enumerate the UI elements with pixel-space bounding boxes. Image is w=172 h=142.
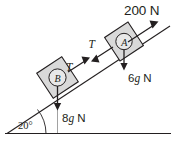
tension-label-lower: T — [66, 62, 72, 74]
applied-force-label: 200 N — [124, 4, 160, 18]
incline-angle-label: 20° — [18, 121, 33, 132]
block-b-letter: B — [55, 73, 61, 84]
weight-label-a: 6g N — [128, 73, 152, 85]
inclined-plane-diagram: B A 200 N T T 6g N 8g N 20° — [0, 0, 172, 142]
block-a-letter: A — [121, 37, 127, 48]
weight-label-b: 8g N — [62, 113, 86, 125]
tension-label-upper: T — [89, 39, 95, 51]
